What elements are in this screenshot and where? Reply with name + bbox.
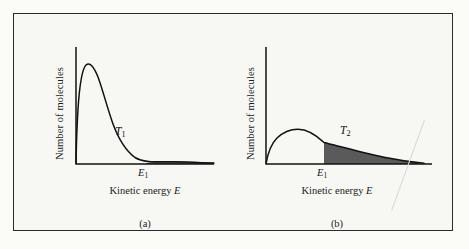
curve-t1 — [76, 64, 214, 164]
threshold-label-b: E1 — [317, 167, 327, 180]
y-axis-label-b: Number of molecules — [245, 67, 256, 160]
x-axis-label-symbol-b: E — [366, 185, 372, 196]
curve-label-sub-a: 1 — [121, 130, 125, 139]
curve-label-sub-b: 2 — [346, 129, 350, 138]
panel-b: Number of molecules E1 T2 Kinetic energy… — [232, 14, 452, 232]
x-axis-label-b: Kinetic energy E — [262, 185, 412, 196]
curve-label-b: T2 — [340, 124, 351, 138]
curve-label-a: T1 — [115, 125, 126, 139]
threshold-sub-a: 1 — [144, 171, 148, 180]
x-axis-label-symbol-a: E — [174, 185, 180, 196]
plot-a — [14, 14, 234, 232]
x-axis-label-a: Kinetic energy E — [72, 185, 218, 196]
figure-page: Number of molecules E1 T1 Kinetic energy… — [0, 0, 469, 249]
figure-frame: Number of molecules E1 T1 Kinetic energy… — [13, 13, 453, 231]
threshold-label-a: E1 — [138, 167, 148, 180]
y-axis-label-a: Number of molecules — [54, 67, 65, 160]
caption-a: (a) — [72, 218, 218, 229]
x-axis-label-prefix-a: Kinetic energy — [110, 185, 175, 196]
threshold-sub-b: 1 — [323, 171, 327, 180]
plot-b — [232, 14, 452, 232]
panel-a: Number of molecules E1 T1 Kinetic energy… — [14, 14, 234, 232]
x-axis-label-prefix-b: Kinetic energy — [302, 185, 367, 196]
caption-b: (b) — [262, 218, 412, 229]
